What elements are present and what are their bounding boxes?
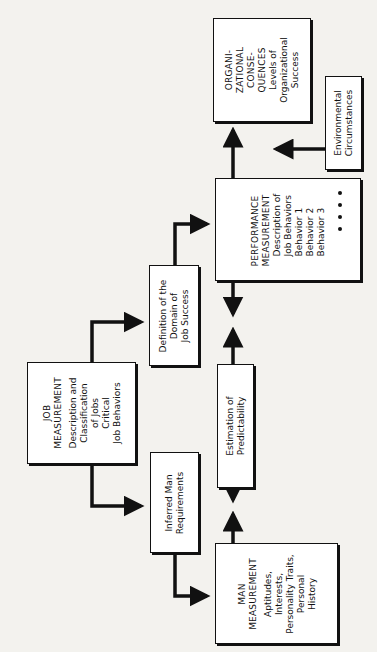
box-title: ZATIONAL [235,37,246,103]
box-body: Predictability [236,396,247,455]
box-body: Interests, [273,554,284,633]
job-measurement-box: JOB MEASUREMENT Description and Classifi… [27,362,136,464]
definition-domain-text: Definition of the Domain of Job Success [158,279,191,352]
box-body: Job Behaviors [283,193,294,266]
box-body: Personality Traits, [284,554,295,633]
box-body: Behavior 2 [305,193,316,266]
box-title: JOB [41,377,52,449]
box-body: Organizational [279,37,290,103]
arrow-job-to-definition [92,322,141,362]
estimation-predictability-text: Estimation of Predictability [225,396,247,455]
performance-measurement-box: PERFORMANCE MEASUREMENT Description of J… [215,178,361,281]
box-body: History [306,554,317,633]
box-title: CONSE- [246,37,257,103]
box-body: Inferred Man [164,471,175,534]
box-body: Classification [78,377,89,449]
job-measurement-text: JOB MEASUREMENT Description and Classifi… [41,377,122,449]
arrow-definition-to-performance [175,224,207,265]
box-body: Success [290,37,301,103]
inferred-man-requirements-text: Inferred Man Requirements [164,471,186,534]
box-body: Domain of [169,279,180,352]
box-body: Personal [295,554,306,633]
environmental-circumstances-box: Environmental Circumstances [325,76,362,170]
box-body: Aptitudes, [262,554,273,633]
box-title: MEASUREMENT [52,377,63,449]
box-body: Levels of [268,37,279,103]
box-body: Behavior 3 [316,193,327,266]
box-title: ORGANI- [224,37,235,103]
box-body: Circumstances [344,90,355,156]
box-body: Requirements [175,471,186,534]
box-title: MEASUREMENT [261,193,272,266]
definition-domain-box: Definition of the Domain of Job Success [149,265,199,366]
man-measurement-text: MAN MEASUREMENT Aptitudes, Interests, Pe… [236,554,317,633]
arrow-inferred-to-man [175,553,207,596]
box-body: Description of [272,193,283,266]
box-title: MEASUREMENT [247,554,258,633]
box-body: Critical [100,377,111,449]
box-body: Behavior 1 [294,193,305,266]
box-body: Environmental [333,90,344,156]
organizational-consequences-text: ORGANI- ZATIONAL CONSE- QUENCES Levels o… [224,37,301,103]
box-title: MAN [236,554,247,633]
inferred-man-requirements-box: Inferred Man Requirements [150,452,199,553]
ellipsis-dots [334,187,348,273]
box-body: Job Success [180,279,191,352]
estimation-predictability-box: Estimation of Predictability [217,364,254,488]
box-body: Estimation of [225,396,236,455]
box-title: PERFORMANCE [250,193,261,266]
box-body: Job Behaviors [111,377,122,449]
man-measurement-box: MAN MEASUREMENT Aptitudes, Interests, Pe… [215,543,338,644]
arrow-job-to-inferred [92,464,141,506]
organizational-consequences-box: ORGANI- ZATIONAL CONSE- QUENCES Levels o… [213,18,311,122]
box-body: of Jobs [89,377,100,449]
performance-measurement-text: PERFORMANCE MEASUREMENT Description of J… [250,193,327,266]
box-body: Description and [67,377,78,449]
box-body: Definition of the [158,279,169,352]
box-title: QUENCES [257,37,268,103]
environmental-circumstances-text: Environmental Circumstances [333,90,355,156]
